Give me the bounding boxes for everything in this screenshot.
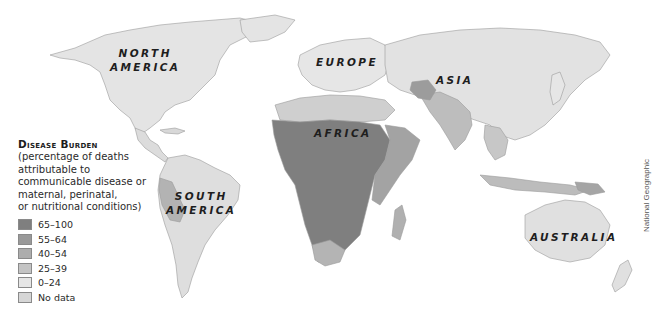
greenland [240,15,295,42]
legend-swatch [18,292,32,303]
legend-item-65-100: 65–100 [18,218,178,233]
legend-item-0-24: 0–24 [18,276,178,291]
indonesia [480,175,590,195]
legend-swatch [18,248,32,259]
legend: Disease Burden (percentage of deaths att… [18,138,178,305]
legend-items: 65–100 55–64 40–54 25–39 0–24 No data [18,218,178,305]
label-asia: ASIA [436,73,473,87]
north-africa [275,95,395,122]
legend-item-25-39: 25–39 [18,261,178,276]
legend-item-no-data: No data [18,290,178,305]
legend-swatch [18,234,32,245]
credit-text: National Geographic [642,159,651,232]
label-australia: AUSTRALIA [530,230,617,244]
madagascar [392,205,406,240]
new-zealand [612,260,632,292]
legend-swatch [18,277,32,288]
legend-item-55-64: 55–64 [18,232,178,247]
label-north-america: NORTH AMERICA [110,46,180,74]
label-africa: AFRICA [314,126,372,140]
legend-swatch [18,219,32,230]
legend-description: (percentage of deaths attributable to co… [18,151,178,214]
label-europe: EUROPE [316,55,378,69]
caribbean [160,128,185,134]
north-america-landmass [50,18,255,135]
legend-item-40-54: 40–54 [18,247,178,262]
legend-title: Disease Burden [18,138,178,151]
legend-swatch [18,263,32,274]
